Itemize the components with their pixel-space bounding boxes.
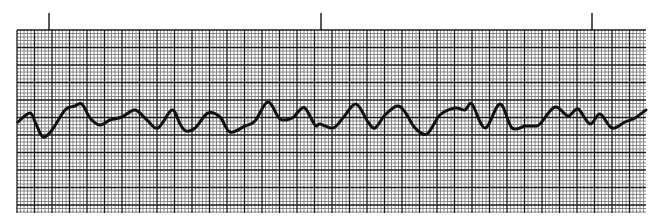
ecg-strip [0, 0, 663, 224]
time-markers [49, 13, 592, 30]
